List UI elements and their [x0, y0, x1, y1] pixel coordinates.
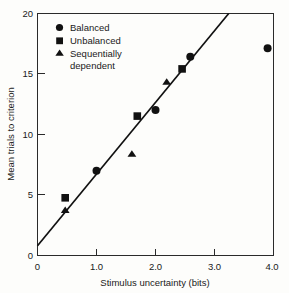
- data-point-balanced: [152, 106, 160, 114]
- x-axis-ticks: [38, 249, 274, 256]
- data-point-sequentially-dependent: [162, 78, 171, 85]
- series-unbalanced-markers: [61, 65, 186, 202]
- series-balanced-markers: [93, 44, 272, 174]
- chart-legend: Balanced Unbalanced Sequentially depende…: [55, 22, 122, 71]
- y-tick-label-10: 10: [22, 129, 33, 140]
- y-tick-label-15: 15: [22, 68, 33, 79]
- y-axis-ticks: [38, 14, 45, 256]
- chart-figure: 0 5 10 15 20 0 1.0 2.0 3.0 4.0 Stimulus …: [0, 0, 289, 293]
- y-tick-label-20: 20: [22, 8, 33, 19]
- legend-marker-triangle-icon: [55, 50, 63, 56]
- data-point-unbalanced: [61, 194, 69, 202]
- x-axis-title: Stimulus uncertainty (bits): [100, 277, 209, 288]
- x-tick-labels: 0 1.0 2.0 3.0 4.0: [35, 261, 279, 272]
- legend-marker-square-icon: [56, 37, 63, 44]
- legend-label-dependent: dependent: [70, 60, 115, 71]
- data-point-balanced: [186, 53, 194, 61]
- legend-label-balanced: Balanced: [70, 22, 110, 33]
- x-tick-label-3.0: 3.0: [208, 261, 221, 272]
- data-point-unbalanced: [134, 112, 142, 120]
- series-sequentially-dependent-markers: [61, 78, 171, 213]
- legend-marker-circle-icon: [56, 24, 63, 31]
- y-tick-label-5: 5: [28, 189, 33, 200]
- y-tick-labels: 0 5 10 15 20: [22, 8, 33, 261]
- data-point-unbalanced: [178, 65, 186, 73]
- x-tick-label-4.0: 4.0: [265, 261, 278, 272]
- data-point-balanced: [93, 167, 101, 175]
- x-tick-label-2.0: 2.0: [149, 261, 162, 272]
- scatter-plot: 0 5 10 15 20 0 1.0 2.0 3.0 4.0 Stimulus …: [0, 0, 289, 293]
- data-point-balanced: [264, 44, 272, 52]
- y-tick-label-0: 0: [28, 250, 33, 261]
- legend-label-sequentially: Sequentially: [70, 48, 122, 59]
- y-axis-title: Mean trials to criterion: [5, 87, 16, 180]
- data-point-sequentially-dependent: [128, 150, 137, 157]
- x-tick-label-0: 0: [35, 261, 40, 272]
- legend-label-unbalanced: Unbalanced: [70, 35, 121, 46]
- x-tick-label-1.0: 1.0: [90, 261, 103, 272]
